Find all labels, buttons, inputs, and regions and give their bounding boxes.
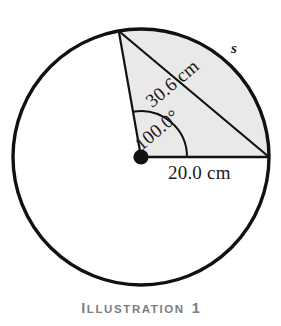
circle-sector-diagram — [0, 0, 281, 326]
caption-number: 1 — [192, 300, 200, 316]
illustration-figure: 30.6 cm 100.0° 20.0 cm s ILLUSTRATION1 — [0, 0, 281, 326]
arc-length-label: s — [231, 41, 237, 56]
radius-length-label: 20.0 cm — [168, 163, 231, 182]
caption-word-remainder: LLUSTRATION — [87, 303, 185, 315]
figure-caption: ILLUSTRATION1 — [0, 300, 281, 316]
